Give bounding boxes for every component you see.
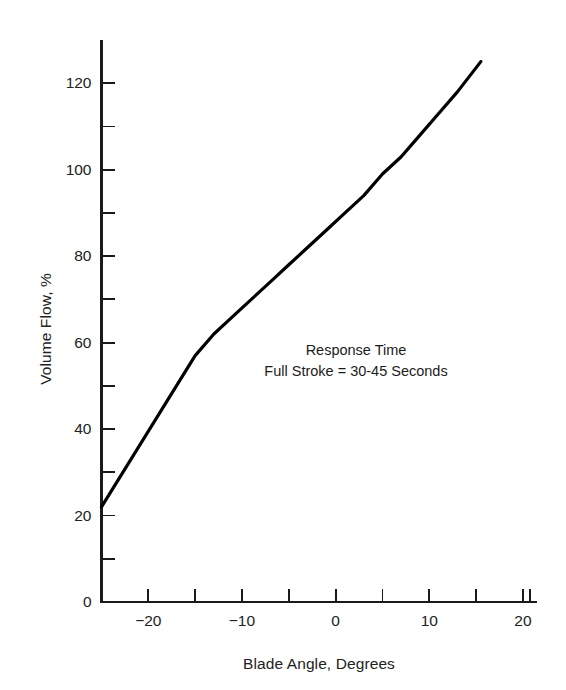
x-axis-title: Blade Angle, Degrees	[101, 655, 537, 673]
annotation-line-1: Response Time	[236, 340, 476, 361]
y-axis-tick-label: 80	[40, 247, 92, 265]
y-axis-tick-label: 0	[40, 593, 92, 611]
response-time-annotation: Response Time Full Stroke = 30-45 Second…	[236, 340, 476, 382]
x-axis-tick-label: −20	[118, 612, 178, 630]
axis-spines	[102, 40, 538, 602]
y-axis-tick-label: 60	[40, 334, 92, 352]
y-axis-tick-label: 120	[40, 74, 92, 92]
y-axis-tick-label: 40	[40, 420, 92, 438]
x-axis-tick-label: 20	[493, 612, 553, 630]
chart-figure: Volume Flow, % Blade Angle, Degrees 0204…	[0, 0, 566, 690]
x-axis-tick-label: −10	[212, 612, 272, 630]
annotation-line-2: Full Stroke = 30-45 Seconds	[236, 361, 476, 382]
y-axis-tick-label: 20	[40, 507, 92, 525]
y-axis-tick-label: 100	[40, 161, 92, 179]
data-series-line	[102, 62, 481, 507]
x-axis-tick-label: 10	[399, 612, 459, 630]
x-axis-tick-label: 0	[306, 612, 366, 630]
